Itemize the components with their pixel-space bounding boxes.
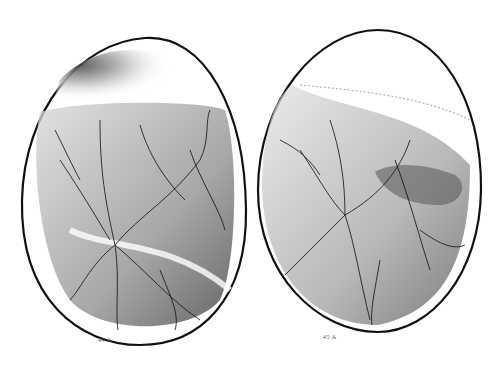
illustration-plate: 44 A 45 A <box>0 0 502 367</box>
egg-right <box>258 30 481 332</box>
figure-label-left: 44 A <box>98 337 112 343</box>
figure-label-right: 45 A <box>323 334 337 340</box>
egg-left <box>22 38 246 345</box>
